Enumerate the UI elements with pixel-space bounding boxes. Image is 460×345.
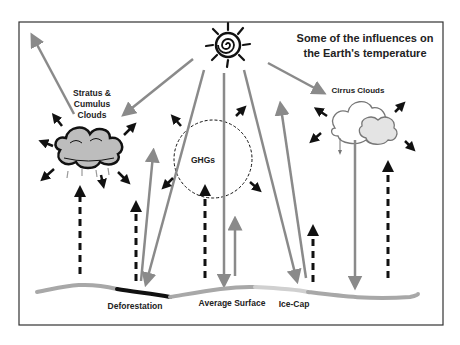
stratus-label-line-1: Stratus & bbox=[73, 88, 111, 98]
title-line-1: Some of the influences on bbox=[297, 32, 434, 44]
title-line-2: the Earth's temperature bbox=[303, 47, 426, 59]
average-surface-label: Average Surface bbox=[199, 298, 266, 308]
cirrus-label: Cirrus Clouds bbox=[332, 86, 385, 95]
deforestation-label: Deforestation bbox=[108, 301, 163, 311]
ghgs-label: GHGs bbox=[191, 155, 215, 165]
stratus-label-line-3: Clouds bbox=[78, 110, 107, 120]
stratus-label-line-2: Cumulus bbox=[74, 99, 111, 109]
earth-temperature-diagram: Some of the influences on the Earth's te… bbox=[0, 0, 460, 345]
ice-cap-label: Ice-Cap bbox=[279, 299, 310, 309]
